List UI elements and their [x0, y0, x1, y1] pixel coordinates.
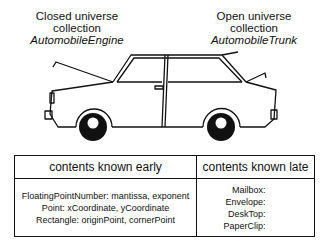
header-early: contents known early: [15, 156, 197, 179]
hood: [53, 62, 113, 82]
car-icon: [0, 0, 328, 150]
header-late: contents known late: [197, 156, 315, 179]
late-contents-cell: Mailbox: Envelope: DeskTop: PaperClip:: [197, 179, 315, 237]
list-item: Mailbox:: [223, 184, 265, 196]
front-wheel-icon: [79, 113, 107, 141]
rear-wheel-icon: [207, 113, 235, 141]
contents-table: contents known early contents known late…: [14, 155, 315, 237]
list-item: Rectangle: originPoint, cornerPoint: [15, 214, 196, 226]
early-contents-cell: FloatingPointNumber: mantissa, exponent …: [15, 179, 197, 237]
list-item: Envelope:: [223, 196, 265, 208]
table-row: FloatingPointNumber: mantissa, exponent …: [15, 179, 315, 237]
list-item: FloatingPointNumber: mantissa, exponent: [15, 190, 196, 202]
table-header-row: contents known early contents known late: [15, 156, 315, 179]
list-item: PaperClip:: [223, 220, 265, 232]
list-item: Point: xCoordinate, yCoordinate: [15, 202, 196, 214]
trunk-lid: [246, 73, 266, 82]
list-item: DeskTop:: [223, 208, 265, 220]
